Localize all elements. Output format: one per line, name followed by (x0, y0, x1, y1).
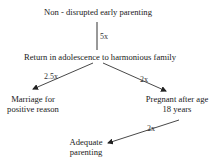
edge-n4-n5-arrow (108, 120, 179, 143)
edge-label-2-5x: 2.5x (44, 72, 58, 81)
node-return-to-harmonious-family: Return in adolescence to harmonious fami… (14, 52, 186, 62)
node-pregnant-after-18: Pregnant after age 18 years (140, 94, 214, 114)
node-marriage-positive-reason: Marriage for positive reason (4, 94, 62, 114)
node-adequate-parenting: Adequate parenting (64, 137, 108, 157)
edge-label-5x: 5x (100, 32, 108, 41)
node-label-line2: positive reason (4, 104, 62, 114)
edge-n2-n4-arrow (103, 63, 166, 91)
edge-label-2x-bottom: 2x (147, 124, 155, 133)
node-label-line2: parenting (64, 147, 108, 157)
edge-n2-n3-arrow (33, 63, 93, 89)
edge-label-2x-right: 2x (140, 75, 148, 84)
node-non-disrupted-early-parenting: Non - disrupted early parenting (38, 7, 158, 17)
connector-layer (0, 0, 222, 166)
node-label-line1: Pregnant after age (140, 94, 214, 104)
node-label-line2: 18 years (140, 104, 214, 114)
node-label-line1: Marriage for (4, 94, 62, 104)
node-label-line1: Adequate (64, 137, 108, 147)
